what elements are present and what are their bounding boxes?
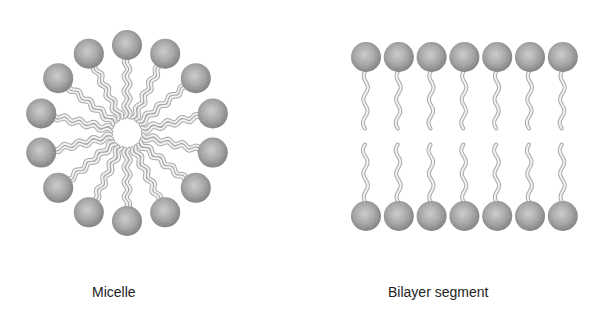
bilayer-top-head-3 [417, 42, 447, 72]
lipid-assembly-diagram [0, 0, 605, 323]
bilayer-bottom-head-2 [384, 201, 414, 231]
bilayer-top-head-2 [384, 42, 414, 72]
bilayer-bottom-head-5 [482, 201, 512, 231]
bilayer-segment [351, 42, 578, 231]
micelle [26, 30, 228, 236]
micelle-head-14 [74, 39, 104, 69]
bilayer-top-head-7 [548, 42, 578, 72]
micelle-label: Micelle [92, 284, 136, 300]
micelle-head-12 [26, 98, 56, 128]
micelle-head-13 [43, 63, 73, 93]
bilayer-top-head-6 [515, 42, 545, 72]
bilayer-bottom-head-7 [548, 201, 578, 231]
bilayer-top-head-1 [351, 42, 381, 72]
bilayer-bottom-head-3 [417, 201, 447, 231]
micelle-head-6 [181, 173, 211, 203]
micelle-head-9 [74, 197, 104, 227]
micelle-head-1 [112, 30, 142, 60]
micelle-head-5 [198, 138, 228, 168]
bilayer-top-head-4 [449, 42, 479, 72]
micelle-head-7 [150, 197, 180, 227]
micelle-head-2 [150, 39, 180, 69]
micelle-head-3 [181, 63, 211, 93]
bilayer-segment-label: Bilayer segment [388, 284, 488, 300]
bilayer-top-head-5 [482, 42, 512, 72]
micelle-head-11 [26, 138, 56, 168]
micelle-head-8 [112, 206, 142, 236]
micelle-head-4 [198, 98, 228, 128]
bilayer-bottom-head-4 [449, 201, 479, 231]
bilayer-bottom-head-1 [351, 201, 381, 231]
micelle-head-10 [43, 173, 73, 203]
bilayer-bottom-head-6 [515, 201, 545, 231]
